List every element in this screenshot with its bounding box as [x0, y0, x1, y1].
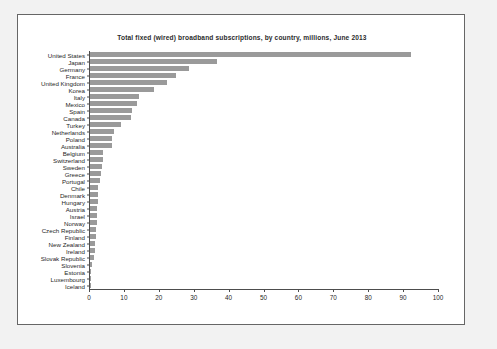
bar [90, 59, 217, 64]
bar [90, 164, 102, 169]
bar-category-label: Netherlands [52, 128, 85, 135]
y-axis-tick [87, 75, 90, 76]
bar-category-label: Australia [61, 142, 85, 149]
y-axis-tick [87, 152, 90, 153]
bar-row: United States [89, 51, 438, 58]
bar [90, 269, 91, 274]
bar [90, 262, 92, 267]
y-axis-tick [87, 166, 90, 167]
y-axis-tick [87, 54, 90, 55]
x-axis-tick [194, 289, 195, 292]
x-axis-tick [368, 289, 369, 292]
bar-category-label: United States [48, 51, 85, 58]
y-axis-tick [87, 201, 90, 202]
bar-row: Estonia [89, 268, 438, 275]
bar-row: United Kingdom [89, 79, 438, 86]
bar-category-label: France [66, 72, 85, 79]
y-axis-tick [87, 187, 90, 188]
bar-row: Portugal [89, 177, 438, 184]
x-axis-tick-label: 100 [433, 294, 444, 301]
bar [90, 283, 91, 288]
bar-category-label: Turkey [66, 121, 85, 128]
x-axis-tick-label: 50 [260, 294, 267, 301]
bar-row: Ireland [89, 247, 438, 254]
y-axis-tick [87, 159, 90, 160]
y-axis-tick [87, 96, 90, 97]
x-axis-tick [403, 289, 404, 292]
y-axis-tick [87, 124, 90, 125]
bar [90, 206, 97, 211]
bar [90, 213, 97, 218]
bar-row: Sweden [89, 163, 438, 170]
y-axis-tick [87, 103, 90, 104]
bar-category-label: Greece [65, 170, 85, 177]
bar [90, 157, 103, 162]
y-axis-tick [87, 68, 90, 69]
x-axis-tick [438, 289, 439, 292]
bar-row: Japan [89, 58, 438, 65]
bar [90, 192, 98, 197]
bar-row: Spain [89, 107, 438, 114]
bar-row: Slovenia [89, 261, 438, 268]
x-axis-tick [298, 289, 299, 292]
bar [90, 227, 96, 232]
bar-category-label: Slovenia [61, 261, 85, 268]
y-axis-tick [87, 250, 90, 251]
x-axis-tick [264, 289, 265, 292]
x-axis-tick-label: 10 [120, 294, 127, 301]
chart-title: Total fixed (wired) broadband subscripti… [18, 34, 466, 41]
x-axis-tick [89, 289, 90, 292]
bar [90, 108, 132, 113]
y-axis-tick [87, 257, 90, 258]
bar [90, 80, 167, 85]
bar-category-label: Sweden [63, 163, 85, 170]
bar [90, 94, 139, 99]
bar-category-label: Belgium [63, 149, 85, 156]
bar [90, 220, 97, 225]
x-axis-tick [124, 289, 125, 292]
bar-category-label: Japan [68, 58, 85, 65]
bar-category-label: Czech Republic [42, 226, 85, 233]
bar-category-label: Denmark [60, 191, 85, 198]
bar [90, 276, 91, 281]
bar-category-label: Mexico [65, 100, 85, 107]
bar [90, 178, 100, 183]
bar-row: Italy [89, 93, 438, 100]
bar-category-label: Austria [66, 205, 85, 212]
bar [90, 234, 96, 239]
bar-row: Chile [89, 184, 438, 191]
bar [90, 129, 114, 134]
bar-category-label: Ireland [66, 247, 85, 254]
bar [90, 101, 137, 106]
y-axis-tick [87, 138, 90, 139]
y-axis-tick [87, 229, 90, 230]
x-axis-tick-label: 60 [295, 294, 302, 301]
y-axis-tick [87, 180, 90, 181]
bar [90, 52, 411, 57]
bar [90, 255, 94, 260]
bar-category-label: New Zealand [49, 240, 85, 247]
y-axis-tick [87, 110, 90, 111]
bar-category-label: Finland [65, 233, 85, 240]
bar [90, 150, 103, 155]
bar-row: Korea [89, 86, 438, 93]
x-axis-tick-label: 20 [155, 294, 162, 301]
bar [90, 136, 112, 141]
bar-row: Mexico [89, 100, 438, 107]
bar-category-label: Hungary [62, 198, 85, 205]
bar-row: Denmark [89, 191, 438, 198]
bar [90, 87, 154, 92]
y-axis-tick [87, 278, 90, 279]
bar-category-label: Slovak Republic [41, 254, 85, 261]
y-axis-tick [87, 236, 90, 237]
bar-category-label: Estonia [64, 268, 85, 275]
x-axis-tick [159, 289, 160, 292]
chart-panel: Total fixed (wired) broadband subscripti… [17, 14, 465, 325]
plot-area: United StatesJapanGermanyFranceUnited Ki… [89, 51, 438, 289]
bar-category-label: Switzerland [53, 156, 85, 163]
bar-category-label: Portugal [62, 177, 85, 184]
bar [90, 185, 98, 190]
bar-category-label: United Kingdom [41, 79, 85, 86]
bar-row: Finland [89, 233, 438, 240]
bar-row: Austria [89, 205, 438, 212]
